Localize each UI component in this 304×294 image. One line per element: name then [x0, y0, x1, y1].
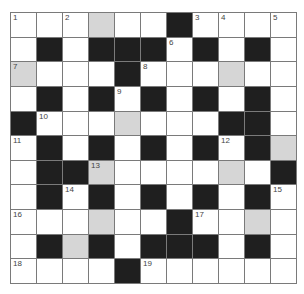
cell-white-r8-c8[interactable] [219, 210, 244, 234]
cell-white-r1-c2[interactable] [63, 38, 88, 62]
cell-white-r10-c3[interactable] [89, 259, 114, 283]
clue-number: 5 [273, 14, 277, 22]
cell-shaded-r2-c0[interactable]: 7 [11, 62, 36, 86]
cell-white-r6-c4[interactable] [115, 161, 140, 185]
cell-black-r1-c3 [89, 38, 114, 62]
cell-white-r10-c10[interactable] [271, 259, 296, 283]
cell-black-r3-c9 [245, 87, 270, 111]
cell-white-r3-c8[interactable] [219, 87, 244, 111]
cell-white-r4-c2[interactable] [63, 112, 88, 136]
cell-white-r0-c1[interactable] [37, 13, 62, 37]
cell-white-r8-c4[interactable] [115, 210, 140, 234]
cell-white-r2-c10[interactable] [271, 62, 296, 86]
clue-number: 12 [221, 137, 230, 145]
cell-white-r3-c2[interactable] [63, 87, 88, 111]
cell-white-r1-c10[interactable] [271, 38, 296, 62]
cell-shaded-r4-c4[interactable] [115, 112, 140, 136]
cell-white-r0-c9[interactable] [245, 13, 270, 37]
cell-white-r9-c0[interactable] [11, 235, 36, 259]
cell-white-r0-c0[interactable]: 1 [11, 13, 36, 37]
cell-white-r0-c8[interactable]: 4 [219, 13, 244, 37]
cell-white-r3-c0[interactable] [11, 87, 36, 111]
clue-number: 3 [195, 14, 199, 22]
cell-black-r6-c2 [63, 161, 88, 185]
cell-white-r1-c6[interactable]: 6 [167, 38, 192, 62]
cell-white-r8-c1[interactable] [37, 210, 62, 234]
cell-white-r3-c4[interactable]: 9 [115, 87, 140, 111]
cell-white-r4-c1[interactable]: 10 [37, 112, 62, 136]
cell-white-r10-c0[interactable]: 18 [11, 259, 36, 283]
cell-white-r5-c6[interactable] [167, 136, 192, 160]
cell-white-r0-c5[interactable] [141, 13, 166, 37]
cell-white-r3-c10[interactable] [271, 87, 296, 111]
cell-white-r2-c9[interactable] [245, 62, 270, 86]
cell-white-r8-c0[interactable]: 16 [11, 210, 36, 234]
cell-white-r10-c9[interactable] [245, 259, 270, 283]
cell-white-r5-c8[interactable]: 12 [219, 136, 244, 160]
cell-white-r2-c5[interactable]: 8 [141, 62, 166, 86]
cell-white-r2-c6[interactable] [167, 62, 192, 86]
cell-white-r6-c7[interactable] [193, 161, 218, 185]
cell-white-r8-c2[interactable] [63, 210, 88, 234]
cell-white-r1-c8[interactable] [219, 38, 244, 62]
cell-white-r0-c2[interactable]: 2 [63, 13, 88, 37]
cell-white-r7-c8[interactable] [219, 185, 244, 209]
cell-white-r9-c8[interactable] [219, 235, 244, 259]
cell-white-r10-c6[interactable] [167, 259, 192, 283]
cell-white-r10-c1[interactable] [37, 259, 62, 283]
cell-white-r5-c0[interactable]: 11 [11, 136, 36, 160]
cell-white-r8-c10[interactable] [271, 210, 296, 234]
cell-black-r4-c0 [11, 112, 36, 136]
cell-white-r6-c5[interactable] [141, 161, 166, 185]
cell-white-r7-c10[interactable]: 15 [271, 185, 296, 209]
cell-white-r7-c2[interactable]: 14 [63, 185, 88, 209]
cell-black-r9-c5 [141, 235, 166, 259]
cell-white-r8-c5[interactable] [141, 210, 166, 234]
cell-white-r10-c7[interactable] [193, 259, 218, 283]
cell-white-r0-c7[interactable]: 3 [193, 13, 218, 37]
cell-white-r10-c8[interactable] [219, 259, 244, 283]
cell-white-r5-c4[interactable] [115, 136, 140, 160]
cell-shaded-r8-c3[interactable] [89, 210, 114, 234]
cell-white-r10-c5[interactable]: 19 [141, 259, 166, 283]
cell-white-r7-c0[interactable] [11, 185, 36, 209]
cell-black-r7-c5 [141, 185, 166, 209]
cell-white-r4-c6[interactable] [167, 112, 192, 136]
cell-shaded-r2-c8[interactable] [219, 62, 244, 86]
cell-black-r10-c4 [115, 259, 140, 283]
clue-number: 9 [117, 88, 121, 96]
clue-number: 6 [169, 39, 173, 47]
cell-shaded-r8-c9[interactable] [245, 210, 270, 234]
cell-white-r2-c7[interactable] [193, 62, 218, 86]
cell-shaded-r6-c3[interactable]: 13 [89, 161, 114, 185]
cell-shaded-r9-c2[interactable] [63, 235, 88, 259]
cell-white-r10-c2[interactable] [63, 259, 88, 283]
cell-white-r2-c2[interactable] [63, 62, 88, 86]
cell-white-r9-c4[interactable] [115, 235, 140, 259]
cell-white-r4-c5[interactable] [141, 112, 166, 136]
cell-white-r2-c1[interactable] [37, 62, 62, 86]
cell-white-r0-c10[interactable]: 5 [271, 13, 296, 37]
cell-black-r3-c5 [141, 87, 166, 111]
cell-white-r4-c10[interactable] [271, 112, 296, 136]
cell-white-r2-c3[interactable] [89, 62, 114, 86]
cell-white-r5-c2[interactable] [63, 136, 88, 160]
cell-white-r7-c4[interactable] [115, 185, 140, 209]
cell-white-r7-c6[interactable] [167, 185, 192, 209]
cell-white-r1-c0[interactable] [11, 38, 36, 62]
cell-shaded-r6-c8[interactable] [219, 161, 244, 185]
clue-number: 14 [65, 186, 74, 194]
cell-white-r6-c0[interactable] [11, 161, 36, 185]
cell-white-r4-c7[interactable] [193, 112, 218, 136]
cell-shaded-r0-c3[interactable] [89, 13, 114, 37]
cell-white-r0-c4[interactable] [115, 13, 140, 37]
cell-white-r9-c10[interactable] [271, 235, 296, 259]
cell-shaded-r5-c10[interactable] [271, 136, 296, 160]
cell-white-r6-c6[interactable] [167, 161, 192, 185]
cell-white-r3-c6[interactable] [167, 87, 192, 111]
cell-white-r8-c7[interactable]: 17 [193, 210, 218, 234]
cell-black-r5-c1 [37, 136, 62, 160]
cell-white-r4-c3[interactable] [89, 112, 114, 136]
cell-white-r6-c9[interactable] [245, 161, 270, 185]
cell-black-r9-c3 [89, 235, 114, 259]
